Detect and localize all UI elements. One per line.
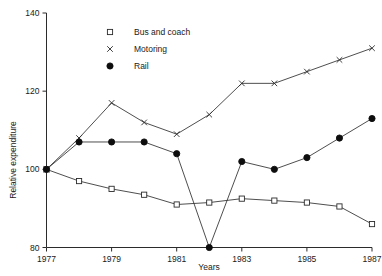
data-point-filled-circle <box>76 139 82 145</box>
x-tick-label: 1979 <box>102 254 121 264</box>
data-point-cross <box>206 112 212 118</box>
data-point-filled-circle <box>271 166 277 172</box>
x-tick-label: 1987 <box>363 254 382 264</box>
data-point-filled-circle <box>109 139 115 145</box>
data-point-open-square <box>109 186 114 191</box>
x-tick-label: 1985 <box>297 254 316 264</box>
data-point-cross <box>109 100 115 106</box>
legend-item-motoring: Motoring <box>107 44 167 54</box>
series-line <box>47 169 373 224</box>
data-point-open-square <box>207 200 212 205</box>
data-point-open-square <box>174 202 179 207</box>
x-tick-label: 1977 <box>37 254 56 264</box>
data-point-open-square <box>304 200 309 205</box>
legend-marker-cross <box>107 46 113 52</box>
data-point-open-square <box>337 204 342 209</box>
chart-container: 80100120140 197719791981198319851987 Rel… <box>0 0 382 276</box>
data-point-filled-circle <box>239 158 245 164</box>
data-point-open-square <box>369 221 374 226</box>
data-point-filled-circle <box>206 244 212 250</box>
chart-legend: Bus and coachMotoringRail <box>107 27 191 71</box>
y-tick-label: 80 <box>30 243 40 253</box>
series-line <box>47 48 373 169</box>
data-point-filled-circle <box>336 135 342 141</box>
x-tick-label: 1981 <box>167 254 186 264</box>
data-point-cross <box>369 45 375 51</box>
data-point-cross <box>141 120 147 126</box>
data-point-open-square <box>239 196 244 201</box>
legend-marker-filled-circle <box>107 63 113 69</box>
data-point-open-square <box>142 192 147 197</box>
x-tick-label: 1983 <box>232 254 251 264</box>
series-line <box>47 119 373 248</box>
y-axis-ticks: 80100120140 <box>25 8 46 253</box>
legend-label: Bus and coach <box>134 27 191 37</box>
series-bus-and-coach <box>44 167 375 227</box>
legend-item-bus-and-coach: Bus and coach <box>107 27 190 37</box>
series-motoring <box>44 45 375 172</box>
legend-label: Rail <box>134 61 149 71</box>
y-tick-label: 140 <box>25 8 39 18</box>
data-point-open-square <box>76 178 81 183</box>
data-point-open-square <box>272 198 277 203</box>
x-axis-title: Years <box>198 262 219 272</box>
data-point-filled-circle <box>141 139 147 145</box>
series-rail <box>43 115 375 250</box>
y-tick-label: 100 <box>25 164 39 174</box>
series-layer <box>43 45 375 250</box>
data-point-filled-circle <box>369 115 375 121</box>
data-point-filled-circle <box>43 166 49 172</box>
data-point-cross <box>337 57 343 63</box>
data-point-filled-circle <box>304 155 310 161</box>
y-axis-title: Relative expenditure <box>8 121 18 199</box>
legend-marker-open-square <box>107 29 112 34</box>
data-point-cross <box>174 131 180 137</box>
legend-label: Motoring <box>134 44 167 54</box>
data-point-filled-circle <box>174 151 180 157</box>
legend-item-rail: Rail <box>107 61 149 71</box>
y-tick-label: 120 <box>25 86 39 96</box>
data-point-cross <box>304 69 310 75</box>
relative-expenditure-line-chart: 80100120140 197719791981198319851987 Rel… <box>0 0 382 276</box>
